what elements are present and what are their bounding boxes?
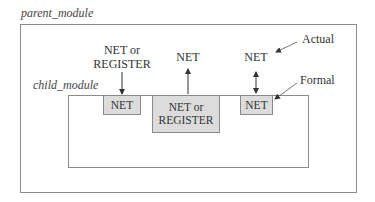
actual-pointer-icon: [276, 42, 297, 52]
formal-pointer-icon: [275, 83, 297, 99]
arrows-layer: [0, 0, 375, 202]
